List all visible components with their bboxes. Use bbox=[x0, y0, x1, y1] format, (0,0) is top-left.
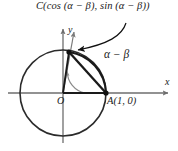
trigonometry-figure: C(cos (α − β), sin (α − β)) α − β A(1, 0… bbox=[0, 0, 178, 151]
point-c-marker bbox=[66, 49, 71, 54]
point-a-label: A(1, 0) bbox=[107, 96, 136, 107]
x-axis-label: x bbox=[165, 77, 169, 87]
y-axis-label: y bbox=[68, 25, 72, 35]
callout-pointer bbox=[78, 23, 126, 50]
figure-canvas bbox=[0, 0, 178, 151]
point-c-label: C(cos (α − β), sin (α − β)) bbox=[36, 1, 150, 12]
angle-arc bbox=[67, 71, 85, 93]
origin-label: O bbox=[57, 96, 64, 106]
radius-oc bbox=[63, 52, 69, 93]
angle-label: α − β bbox=[104, 49, 129, 61]
